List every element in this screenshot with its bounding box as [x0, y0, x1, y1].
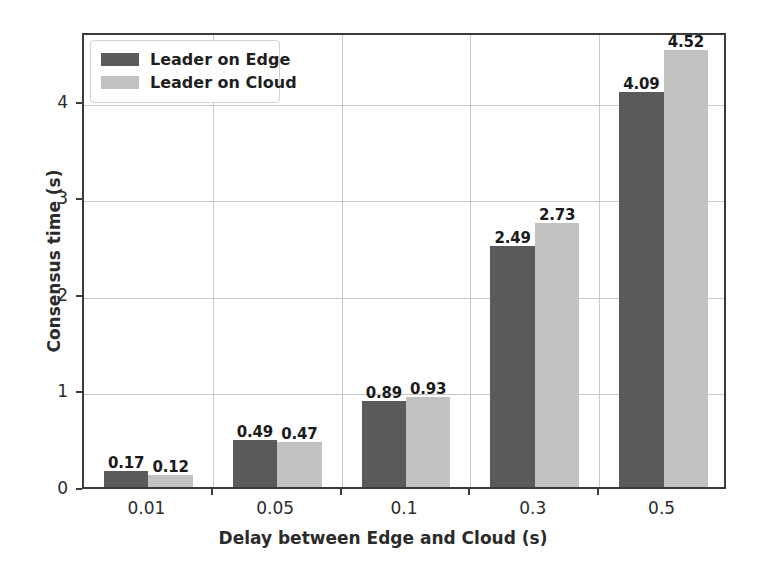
y-tick-label: 2 — [40, 285, 68, 305]
y-tick-label: 4 — [40, 92, 68, 112]
bar-value-label: 4.09 — [623, 75, 659, 93]
bar-value-label: 2.49 — [494, 229, 530, 247]
bar-edge-0.1[interactable] — [362, 401, 406, 487]
bar-value-label: 0.47 — [281, 425, 317, 443]
bar-cloud-0.1[interactable] — [406, 397, 450, 487]
legend-label-edge: Leader on Edge — [150, 50, 290, 69]
bar-cloud-0.5[interactable] — [664, 50, 708, 487]
legend-item-leader-on-cloud[interactable]: Leader on Cloud — [101, 71, 269, 94]
x-tick-label: 0.1 — [390, 498, 417, 518]
bar-chart-figure: Consensus time (s) 01234 0.170.120.490.4… — [0, 0, 766, 575]
bar-value-label: 0.12 — [153, 458, 189, 476]
gridline-vertical — [599, 35, 600, 487]
x-tick-label: 0.5 — [648, 498, 675, 518]
legend-item-leader-on-edge[interactable]: Leader on Edge — [101, 48, 269, 71]
bar-edge-0.3[interactable] — [490, 246, 534, 487]
y-axis-label-container: Consensus time (s) — [18, 33, 42, 489]
legend-swatch-icon-cloud — [101, 76, 139, 89]
x-axis-label: Delay between Edge and Cloud (s) — [0, 528, 766, 548]
bar-cloud-0.01[interactable] — [148, 475, 192, 487]
legend-label-cloud: Leader on Cloud — [150, 73, 297, 92]
bar-value-label: 0.49 — [237, 423, 273, 441]
bar-edge-0.5[interactable] — [619, 92, 663, 487]
bar-value-label: 0.93 — [410, 380, 446, 398]
bar-cloud-0.3[interactable] — [535, 223, 579, 487]
x-tick-mark — [468, 489, 470, 495]
y-axis-label: Consensus time (s) — [44, 121, 64, 401]
x-tick-mark — [340, 489, 342, 495]
legend-swatch-icon-edge — [101, 53, 139, 66]
x-tick-label: 0.01 — [127, 498, 165, 518]
bar-cloud-0.05[interactable] — [277, 442, 321, 487]
x-tick-label: 0.05 — [256, 498, 294, 518]
bar-edge-0.01[interactable] — [104, 471, 148, 487]
y-tick-label: 3 — [40, 188, 68, 208]
gridline-vertical — [342, 35, 343, 487]
x-tick-mark — [597, 489, 599, 495]
x-tick-label: 0.3 — [519, 498, 546, 518]
y-tick-label: 0 — [40, 478, 68, 498]
bar-value-label: 2.73 — [539, 206, 575, 224]
bar-value-label: 0.89 — [366, 384, 402, 402]
y-tick-label: 1 — [40, 381, 68, 401]
bar-value-label: 4.52 — [668, 33, 704, 51]
bar-value-label: 0.17 — [108, 454, 144, 472]
x-tick-mark — [211, 489, 213, 495]
legend: Leader on Edge Leader on Cloud — [90, 40, 280, 103]
gridline-vertical — [470, 35, 471, 487]
bar-edge-0.05[interactable] — [233, 440, 277, 487]
plot-area: 0.170.120.490.470.890.932.492.734.094.52… — [82, 33, 726, 489]
